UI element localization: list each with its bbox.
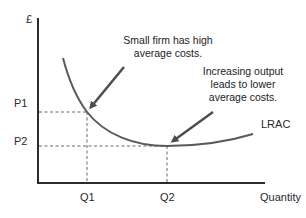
annotation-increasing-output: Increasing output leads to lower average… [203,65,284,103]
y-axis-label: £ [26,13,32,25]
arrow-to-q2p2 [173,112,213,141]
reference-lines [39,112,167,183]
annotation2-line2: leads to lower [211,78,276,90]
x-axis-label: Quantity [260,191,301,203]
annotation1-line2: average costs. [134,47,202,59]
p2-tick-label: P2 [14,135,27,147]
lrac-label: LRAC [261,118,290,130]
lrac-diagram: £ Quantity P1 P2 Q1 Q2 LRAC Small firm h… [0,0,306,218]
annotation1-line1: Small firm has high [123,34,212,46]
q1-tick-label: Q1 [80,191,95,203]
p1-tick-label: P1 [14,97,27,109]
q2-tick-label: Q2 [160,191,175,203]
annotation2-line1: Increasing output [203,65,284,77]
annotation-small-firm: Small firm has high average costs. [123,34,212,59]
arrow-to-q1p1 [91,67,124,107]
annotation2-line3: average costs. [209,91,277,103]
